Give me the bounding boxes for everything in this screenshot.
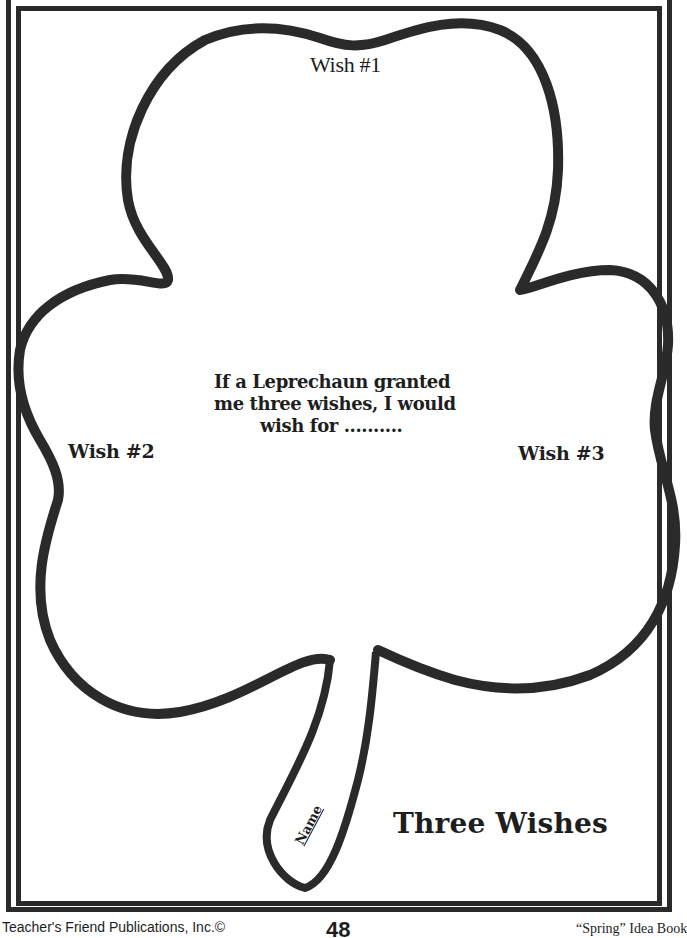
wish-3-label: Wish #3 <box>518 442 604 464</box>
footer-publisher: Teacher's Friend Publications, Inc.© <box>2 919 225 935</box>
footer-book-title: “Spring” Idea Book <box>576 921 687 937</box>
prompt-line-2: me three wishes, I would <box>214 393 456 415</box>
prompt-line-3: wish for .......... <box>214 415 456 437</box>
wish-2-label: Wish #2 <box>68 440 154 462</box>
prompt-line-1: If a Leprechaun granted <box>214 371 456 393</box>
footer-page-number: 48 <box>326 917 350 938</box>
wish-1-label: Wish #1 <box>310 52 381 78</box>
worksheet-title: Three Wishes <box>393 807 608 840</box>
prompt-text: If a Leprechaun granted me three wishes,… <box>214 371 456 437</box>
